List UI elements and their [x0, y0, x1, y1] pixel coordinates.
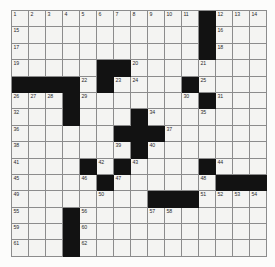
grid-open-cell[interactable] — [216, 208, 233, 224]
grid-open-cell[interactable] — [148, 240, 165, 256]
grid-open-cell[interactable] — [29, 159, 46, 175]
grid-open-cell[interactable] — [233, 93, 250, 109]
grid-open-cell[interactable]: 35 — [199, 109, 216, 125]
grid-open-cell[interactable]: 24 — [131, 77, 148, 93]
grid-open-cell[interactable] — [216, 60, 233, 76]
grid-open-cell[interactable] — [63, 175, 80, 191]
grid-open-cell[interactable]: 58 — [165, 208, 182, 224]
grid-open-cell[interactable] — [63, 159, 80, 175]
grid-open-cell[interactable]: 16 — [216, 27, 233, 43]
grid-open-cell[interactable] — [233, 60, 250, 76]
grid-open-cell[interactable] — [46, 60, 63, 76]
grid-open-cell[interactable] — [29, 240, 46, 256]
grid-open-cell[interactable]: 14 — [250, 11, 267, 27]
grid-open-cell[interactable] — [29, 175, 46, 191]
grid-open-cell[interactable] — [165, 224, 182, 240]
grid-open-cell[interactable] — [233, 109, 250, 125]
grid-open-cell[interactable]: 50 — [97, 191, 114, 207]
grid-open-cell[interactable]: 56 — [80, 208, 97, 224]
grid-open-cell[interactable]: 29 — [80, 93, 97, 109]
grid-open-cell[interactable] — [182, 27, 199, 43]
grid-open-cell[interactable] — [97, 126, 114, 142]
grid-open-cell[interactable]: 31 — [216, 93, 233, 109]
grid-open-cell[interactable] — [97, 93, 114, 109]
grid-open-cell[interactable] — [216, 142, 233, 158]
grid-open-cell[interactable] — [182, 60, 199, 76]
grid-open-cell[interactable]: 18 — [216, 44, 233, 60]
grid-open-cell[interactable] — [80, 109, 97, 125]
grid-open-cell[interactable]: 7 — [114, 11, 131, 27]
grid-open-cell[interactable] — [29, 191, 46, 207]
grid-open-cell[interactable] — [131, 208, 148, 224]
grid-open-cell[interactable] — [97, 240, 114, 256]
grid-open-cell[interactable] — [46, 191, 63, 207]
grid-open-cell[interactable] — [182, 142, 199, 158]
grid-open-cell[interactable]: 51 — [199, 191, 216, 207]
grid-open-cell[interactable] — [131, 175, 148, 191]
grid-open-cell[interactable] — [216, 77, 233, 93]
grid-open-cell[interactable] — [80, 27, 97, 43]
grid-open-cell[interactable]: 49 — [12, 191, 29, 207]
grid-open-cell[interactable]: 27 — [29, 93, 46, 109]
grid-open-cell[interactable]: 59 — [12, 224, 29, 240]
grid-open-cell[interactable] — [216, 224, 233, 240]
grid-open-cell[interactable] — [114, 27, 131, 43]
grid-open-cell[interactable]: 8 — [131, 11, 148, 27]
grid-open-cell[interactable] — [199, 126, 216, 142]
grid-open-cell[interactable]: 2 — [29, 11, 46, 27]
grid-open-cell[interactable]: 48 — [199, 175, 216, 191]
grid-open-cell[interactable] — [114, 109, 131, 125]
grid-open-cell[interactable] — [63, 191, 80, 207]
grid-open-cell[interactable] — [199, 142, 216, 158]
grid-open-cell[interactable] — [148, 159, 165, 175]
grid-open-cell[interactable]: 15 — [12, 27, 29, 43]
grid-open-cell[interactable]: 13 — [233, 11, 250, 27]
grid-open-cell[interactable] — [63, 27, 80, 43]
grid-open-cell[interactable]: 41 — [12, 159, 29, 175]
grid-open-cell[interactable] — [29, 44, 46, 60]
grid-open-cell[interactable] — [182, 208, 199, 224]
grid-open-cell[interactable] — [250, 126, 267, 142]
grid-open-cell[interactable] — [250, 240, 267, 256]
crossword-grid[interactable]: 1234567891011121314151617181920212223242… — [11, 10, 267, 257]
grid-open-cell[interactable]: 26 — [12, 93, 29, 109]
grid-open-cell[interactable] — [29, 109, 46, 125]
grid-open-cell[interactable]: 44 — [216, 159, 233, 175]
grid-open-cell[interactable] — [233, 240, 250, 256]
grid-open-cell[interactable] — [29, 126, 46, 142]
grid-open-cell[interactable]: 53 — [233, 191, 250, 207]
grid-open-cell[interactable]: 3 — [46, 11, 63, 27]
grid-open-cell[interactable] — [148, 60, 165, 76]
grid-open-cell[interactable] — [46, 27, 63, 43]
grid-open-cell[interactable]: 46 — [80, 175, 97, 191]
grid-open-cell[interactable]: 52 — [216, 191, 233, 207]
grid-open-cell[interactable] — [148, 224, 165, 240]
grid-open-cell[interactable] — [233, 159, 250, 175]
grid-open-cell[interactable] — [165, 109, 182, 125]
grid-open-cell[interactable] — [182, 109, 199, 125]
grid-open-cell[interactable]: 45 — [12, 175, 29, 191]
grid-open-cell[interactable] — [63, 126, 80, 142]
grid-open-cell[interactable]: 55 — [12, 208, 29, 224]
grid-open-cell[interactable]: 54 — [250, 191, 267, 207]
grid-open-cell[interactable] — [97, 109, 114, 125]
grid-open-cell[interactable] — [165, 175, 182, 191]
grid-open-cell[interactable] — [97, 208, 114, 224]
grid-open-cell[interactable] — [63, 142, 80, 158]
grid-open-cell[interactable] — [114, 224, 131, 240]
grid-open-cell[interactable] — [46, 175, 63, 191]
grid-open-cell[interactable] — [250, 60, 267, 76]
grid-open-cell[interactable] — [165, 77, 182, 93]
grid-open-cell[interactable] — [80, 126, 97, 142]
grid-open-cell[interactable] — [233, 208, 250, 224]
grid-open-cell[interactable] — [46, 126, 63, 142]
grid-open-cell[interactable]: 19 — [12, 60, 29, 76]
grid-open-cell[interactable]: 6 — [97, 11, 114, 27]
grid-open-cell[interactable] — [182, 175, 199, 191]
grid-open-cell[interactable] — [29, 224, 46, 240]
grid-open-cell[interactable] — [114, 240, 131, 256]
grid-open-cell[interactable] — [148, 27, 165, 43]
grid-open-cell[interactable] — [131, 191, 148, 207]
grid-open-cell[interactable] — [29, 60, 46, 76]
grid-open-cell[interactable] — [216, 126, 233, 142]
